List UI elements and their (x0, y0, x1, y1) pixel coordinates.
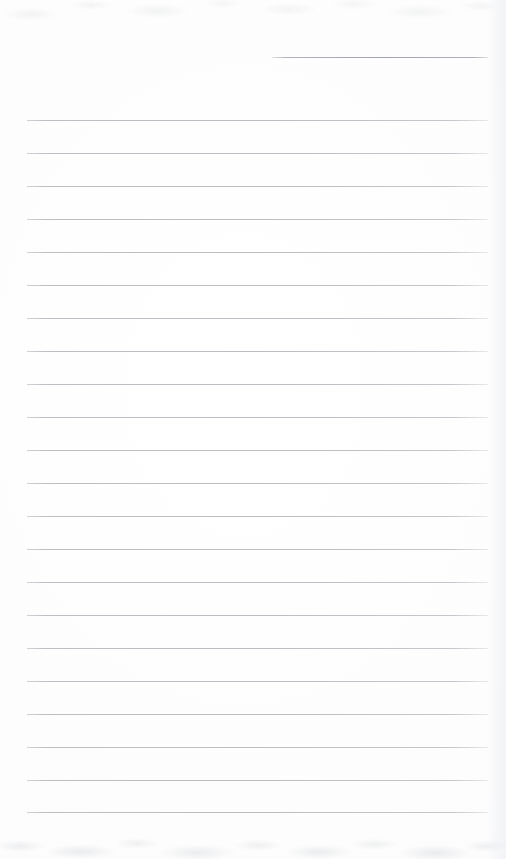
ruled-line (27, 714, 488, 715)
ruled-line (27, 681, 488, 682)
ruled-line (27, 252, 488, 253)
ruled-line (27, 120, 488, 121)
ruled-line (272, 57, 488, 58)
ruled-line (27, 483, 488, 484)
paper-background (0, 0, 506, 859)
ruled-line (27, 417, 488, 418)
ruled-line (27, 516, 488, 517)
ruled-line (27, 351, 488, 352)
ruled-line (27, 747, 488, 748)
ruled-line (27, 219, 488, 220)
ruled-line (27, 780, 488, 781)
lined-paper-page (0, 0, 506, 859)
ruled-line (27, 582, 488, 583)
ruled-line (27, 615, 488, 616)
ruled-line (27, 153, 488, 154)
ruled-line (27, 384, 488, 385)
ruled-line (27, 450, 488, 451)
ruled-line (27, 812, 488, 813)
ruled-line (27, 648, 488, 649)
ruled-line (27, 285, 488, 286)
ruled-line (27, 186, 488, 187)
ruled-line (27, 318, 488, 319)
ruled-line (27, 549, 488, 550)
